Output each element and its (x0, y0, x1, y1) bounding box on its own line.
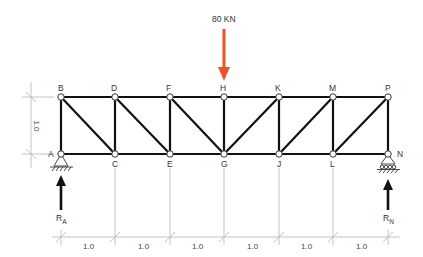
reaction-N: RN (383, 179, 394, 225)
diagonal-LP (333, 97, 388, 154)
node-label-G: G (221, 159, 228, 169)
diagonal-JM (279, 97, 333, 154)
load-arrow-head (218, 67, 230, 81)
node-label-E: E (167, 159, 173, 169)
reaction-N-subscript: N (389, 218, 394, 225)
truss-diagram: B D F H K M P A C E G J L N 80 KN RA RN … (0, 0, 423, 257)
span-label-2: 1.0 (138, 242, 150, 251)
reaction-A-subscript: A (62, 218, 67, 225)
node-label-M: M (329, 83, 336, 93)
diagonal-GK (224, 97, 279, 154)
height-dimension-label: 1.0 (32, 120, 41, 132)
node-label-J: J (277, 159, 281, 169)
node-label-A: A (48, 149, 54, 159)
node-label-D: D (111, 83, 117, 93)
node-label-C: C (112, 159, 118, 169)
node-label-N: N (397, 149, 403, 159)
truss-members (61, 97, 388, 154)
load-label: 80 KN (212, 14, 236, 24)
span-label-3: 1.0 (192, 242, 204, 251)
node-label-B: B (58, 83, 64, 93)
node-label-P: P (385, 83, 391, 93)
diagonal-FG (170, 97, 224, 154)
node-label-K: K (275, 83, 281, 93)
diagonal-BC (61, 97, 115, 154)
node-label-H: H (220, 83, 226, 93)
span-label-6: 1.0 (356, 242, 368, 251)
svg-text:RA: RA (56, 213, 67, 225)
applied-load: 80 KN (212, 14, 236, 81)
svg-text:RN: RN (383, 213, 394, 225)
span-label-1: 1.0 (83, 242, 95, 251)
diagonal-DE (115, 97, 170, 154)
span-label-5: 1.0 (301, 242, 313, 251)
dimension-lines (22, 82, 400, 245)
reaction-A: RA (56, 175, 67, 225)
span-dimension-labels: 1.0 1.0 1.0 1.0 1.0 1.0 (83, 242, 368, 251)
span-label-4: 1.0 (247, 242, 259, 251)
node-label-F: F (166, 83, 171, 93)
node-label-L: L (330, 159, 335, 169)
